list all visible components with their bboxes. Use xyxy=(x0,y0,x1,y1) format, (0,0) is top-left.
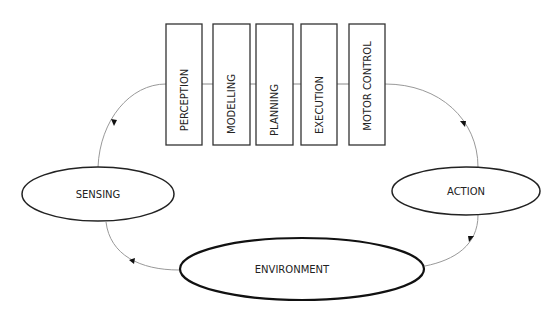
arrowhead-up-left xyxy=(111,119,117,126)
arrow-sensing-to-perception xyxy=(98,84,166,167)
label-planning: PLANNING xyxy=(269,84,280,136)
arrow-environment-to-sensing xyxy=(106,222,179,270)
label-sensing: SENSING xyxy=(76,189,121,200)
sense-plan-act-diagram: PERCEPTION MODELLING PLANNING EXECUTION … xyxy=(0,0,558,318)
label-perception: PERCEPTION xyxy=(179,69,190,132)
label-modelling: MODELLING xyxy=(226,74,237,134)
label-execution: EXECUTION xyxy=(314,76,325,134)
label-motor-control: MOTOR CONTROL xyxy=(362,41,373,131)
arrowhead-down-right xyxy=(460,121,466,127)
label-environment: ENVIRONMENT xyxy=(255,264,330,275)
label-action: ACTION xyxy=(447,186,485,197)
